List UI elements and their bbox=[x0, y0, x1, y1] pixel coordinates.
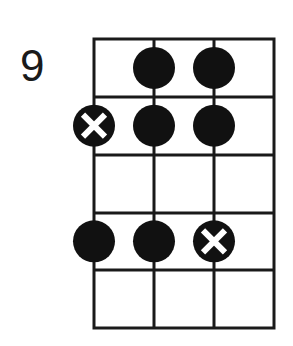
note-dot bbox=[193, 105, 235, 147]
root-note-marker bbox=[193, 220, 235, 262]
note-dot bbox=[133, 47, 175, 89]
note-dot bbox=[73, 220, 115, 262]
grid-lines bbox=[94, 39, 274, 328]
root-note-marker bbox=[73, 105, 115, 147]
note-dot bbox=[193, 47, 235, 89]
fretboard-grid bbox=[0, 0, 293, 346]
note-dot bbox=[133, 105, 175, 147]
note-dot bbox=[133, 220, 175, 262]
grid-border bbox=[94, 39, 274, 328]
